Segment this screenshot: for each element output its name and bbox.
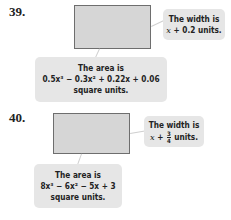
width-expression: x + 0.2 units. <box>166 25 221 36</box>
area-callout-label: The area is <box>78 63 124 74</box>
area-callout-40: The area is 8x³ − 6x² − 5x + 3 square un… <box>34 164 122 208</box>
problem-number-39: 39. <box>9 4 25 20</box>
width-callout-39: The width is x + 0.2 units. <box>163 9 225 40</box>
width-expression: x + 34 units. <box>150 131 198 144</box>
area-pointer-40 <box>77 154 82 165</box>
fraction: 34 <box>167 131 171 144</box>
rectangle-39 <box>74 5 151 49</box>
rectangle-40 <box>53 113 130 154</box>
area-units: square units. <box>51 192 106 203</box>
width-callout-label: The width is <box>149 120 200 131</box>
area-units: square units. <box>74 85 129 96</box>
area-expression: 8x³ − 6x² − 5x + 3 <box>40 181 115 192</box>
area-expression: 0.5x³ − 0.3x² + 0.22x + 0.06 <box>42 74 159 85</box>
width-pointer-40 <box>130 130 145 134</box>
area-callout-39: The area is 0.5x³ − 0.3x² + 0.22x + 0.06… <box>35 57 167 102</box>
width-callout-label: The width is <box>169 14 220 25</box>
width-callout-40: The width is x + 34 units. <box>144 116 204 147</box>
area-callout-label: The area is <box>55 170 101 181</box>
problem-number-40: 40. <box>9 110 25 126</box>
